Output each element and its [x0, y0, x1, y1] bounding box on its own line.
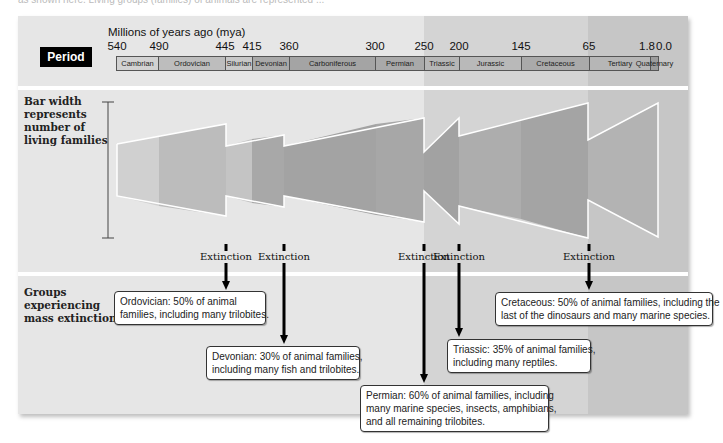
family-diversity-graphic: [0, 0, 723, 443]
extinction-label-triassic: Extinction: [433, 251, 485, 262]
segment-silurian: [226, 139, 252, 203]
arrow-head-icon: [222, 281, 230, 290]
callout-ordovician: Ordovician: 50% of animalfamilies, inclu…: [114, 291, 266, 325]
segment-cretaceous: [521, 103, 588, 238]
segment-cenozoic: [588, 103, 658, 237]
extinction-label-ordovician: Extinction: [200, 251, 252, 262]
arrow-head-icon: [455, 328, 463, 337]
scale-bracket: [102, 102, 114, 238]
arrow-head-icon: [420, 374, 428, 383]
segment-devonian: [252, 135, 284, 207]
segment-jurassic: [459, 120, 521, 219]
arrow-head-icon: [585, 281, 593, 290]
callout-triassic: Triassic: 35% of animal families,includi…: [447, 339, 591, 373]
segment-carboniferous: [284, 124, 376, 215]
extinction-groups-label: Groups experiencing mass extinction: [24, 286, 117, 325]
segment-cambrian: [117, 136, 159, 206]
callout-permian: Permian: 60% of animal families, includi…: [360, 385, 549, 432]
extinction-label-devonian: Extinction: [258, 251, 310, 262]
callout-devonian: Devonian: 30% of animal families,includi…: [206, 346, 360, 380]
callout-cretaceous: Cretaceous: 50% of animal families, incl…: [495, 292, 713, 326]
arrow-head-icon: [280, 335, 288, 344]
segment-ordovician: [159, 124, 226, 216]
segment-permian: [376, 118, 424, 222]
extinction-label-cretaceous: Extinction: [563, 251, 615, 262]
